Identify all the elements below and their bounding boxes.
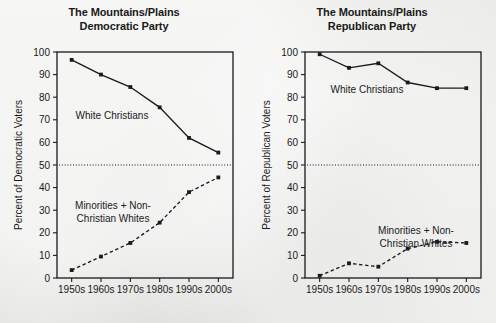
y-axis-tick-label: 10	[287, 250, 299, 261]
figure-two-panel-line-charts: The Mountains/Plains Democratic Party 01…	[0, 0, 496, 323]
data-point-marker	[216, 176, 220, 180]
x-axis-tick-label: 1990s	[175, 284, 202, 295]
y-axis-title: Percent of Republican Voters	[261, 100, 272, 230]
x-axis-tick-label: 1960s	[87, 284, 114, 295]
y-axis-tick-label: 20	[287, 227, 299, 238]
data-point-marker	[216, 151, 220, 155]
data-point-marker	[406, 81, 410, 85]
y-axis-tick-label: 60	[39, 137, 51, 148]
data-point-marker	[99, 255, 103, 259]
chart-panel-republican: The Mountains/Plains Republican Party 01…	[248, 0, 496, 323]
plot-area-frame	[57, 52, 233, 278]
y-axis-tick-label: 100	[281, 47, 298, 58]
data-point-marker	[347, 261, 351, 265]
y-axis-tick-label: 50	[39, 160, 51, 171]
data-point-marker	[318, 274, 322, 278]
data-point-marker	[128, 241, 132, 245]
y-axis-tick-label: 50	[287, 160, 299, 171]
x-axis-tick-label: 1960s	[335, 284, 362, 295]
y-axis-tick-label: 80	[287, 92, 299, 103]
data-point-marker	[187, 190, 191, 194]
data-point-marker	[376, 265, 380, 269]
data-point-marker	[70, 58, 74, 62]
chart-svg-democratic: 01020304050607080901001950s1960s1970s198…	[0, 0, 248, 323]
y-axis-tick-label: 30	[287, 205, 299, 216]
y-axis-tick-label: 20	[39, 227, 51, 238]
data-point-marker	[464, 241, 468, 245]
data-point-marker	[464, 86, 468, 90]
y-axis-tick-label: 80	[39, 92, 51, 103]
y-axis-tick-label: 90	[287, 69, 299, 80]
y-axis-tick-label: 0	[292, 273, 298, 284]
series-label-minorities-line1: Minorities + Non-	[378, 225, 454, 236]
y-axis-tick-label: 60	[287, 137, 299, 148]
y-axis-tick-label: 40	[39, 182, 51, 193]
x-axis-tick-label: 1950s	[58, 284, 85, 295]
y-axis-tick-label: 90	[39, 69, 51, 80]
series-label-minorities-line1: Minorities + Non-	[75, 200, 151, 211]
data-point-marker	[99, 73, 103, 77]
data-point-marker	[318, 52, 322, 56]
data-point-marker	[128, 85, 132, 89]
y-axis-tick-label: 70	[39, 114, 51, 125]
chart-panel-democratic: The Mountains/Plains Democratic Party 01…	[0, 0, 248, 323]
x-axis-tick-label: 2000s	[453, 284, 480, 295]
data-point-marker	[435, 86, 439, 90]
x-axis-tick-label: 1980s	[146, 284, 173, 295]
data-point-marker	[347, 66, 351, 70]
x-axis-tick-label: 1950s	[306, 284, 333, 295]
x-axis-tick-label: 2000s	[205, 284, 232, 295]
x-axis-tick-label: 1970s	[365, 284, 392, 295]
x-axis-tick-label: 1990s	[423, 284, 450, 295]
y-axis-tick-label: 40	[287, 182, 299, 193]
series-label-minorities-line2: Christian Whites	[380, 238, 453, 249]
x-axis-tick-label: 1980s	[394, 284, 421, 295]
y-axis-title: Percent of Democratic Voters	[13, 100, 24, 230]
data-point-marker	[187, 136, 191, 140]
series-line-white-christians	[72, 60, 219, 153]
series-label-white-christians: White Christians	[331, 84, 404, 95]
y-axis-tick-label: 10	[39, 250, 51, 261]
data-point-marker	[158, 221, 162, 225]
data-point-marker	[376, 61, 380, 65]
y-axis-tick-label: 0	[44, 273, 50, 284]
chart-svg-republican: 01020304050607080901001950s1960s1970s198…	[248, 0, 496, 323]
y-axis-tick-label: 100	[33, 47, 50, 58]
y-axis-tick-label: 30	[39, 205, 51, 216]
y-axis-tick-label: 70	[287, 114, 299, 125]
x-axis-tick-label: 1970s	[117, 284, 144, 295]
data-point-marker	[70, 268, 74, 272]
data-point-marker	[158, 105, 162, 109]
series-label-minorities-line2: Christian Whites	[77, 213, 150, 224]
series-label-white-christians: White Christians	[76, 110, 149, 121]
